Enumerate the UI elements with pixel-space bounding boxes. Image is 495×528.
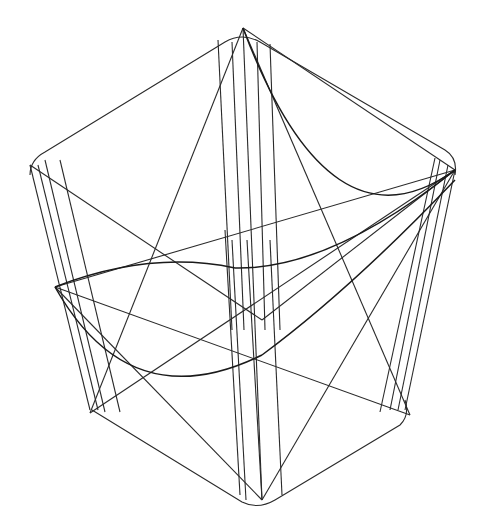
edge-line: [270, 240, 282, 495]
edge-line: [38, 165, 98, 410]
edge-line: [270, 44, 280, 330]
edge-line: [390, 160, 440, 410]
edge-line: [243, 28, 262, 500]
edge-line: [398, 165, 448, 410]
bottom-outline: [92, 400, 407, 506]
edge-line: [257, 42, 265, 330]
edge-lines: [30, 28, 455, 500]
edge-line: [30, 165, 90, 410]
wireframe-figure: [0, 0, 495, 528]
curved-edge: [262, 180, 455, 355]
edge-line: [232, 240, 246, 500]
edge-line: [218, 40, 232, 330]
edge-line: [232, 42, 244, 330]
top-outline: [30, 37, 456, 175]
edge-line: [225, 230, 240, 495]
edge-line: [247, 240, 262, 500]
edge-line: [45, 160, 105, 412]
edge-line: [60, 160, 120, 412]
